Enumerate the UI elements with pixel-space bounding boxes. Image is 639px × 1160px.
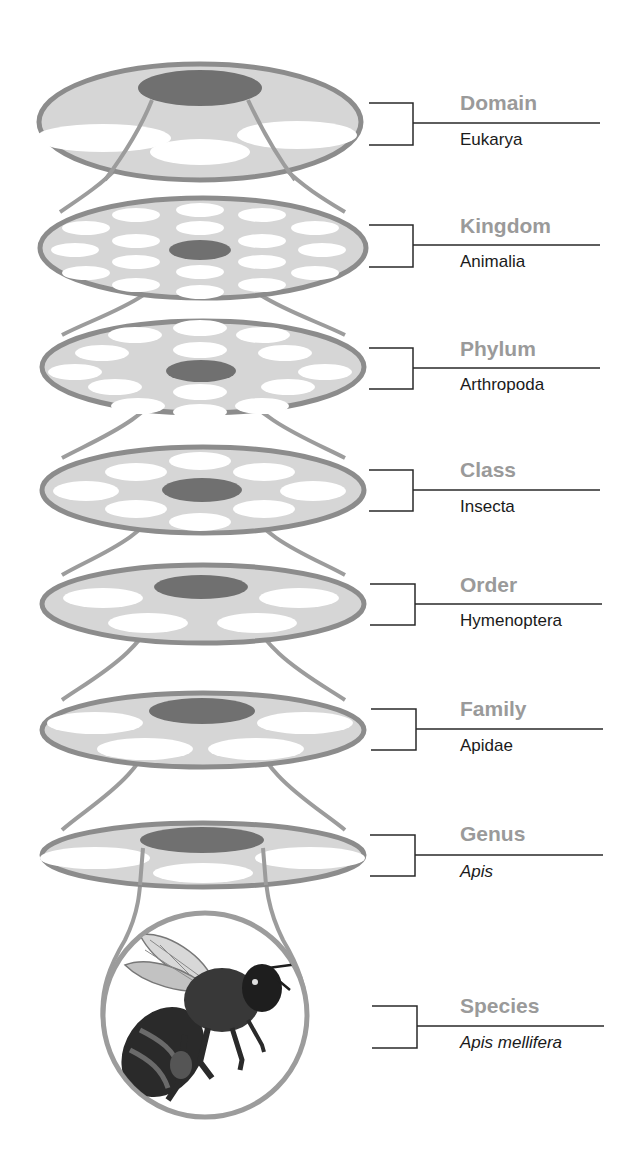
taxon-species: Apis mellifera	[460, 1034, 562, 1051]
disk-kingdom	[40, 198, 366, 299]
disk-phylum	[42, 320, 364, 420]
taxon-kingdom: Animalia	[460, 253, 525, 270]
taxon-genus: Apis	[460, 863, 493, 880]
taxon-phylum: Arthropoda	[460, 376, 544, 393]
disk-order	[42, 565, 364, 643]
disk-class	[42, 447, 364, 533]
rank-family: Family	[460, 698, 527, 719]
rank-phylum: Phylum	[460, 338, 536, 359]
taxon-family: Apidae	[460, 737, 513, 754]
rank-kingdom: Kingdom	[460, 215, 551, 236]
rank-species: Species	[460, 995, 539, 1016]
taxonomy-diagram	[0, 0, 639, 1160]
taxon-class: Insecta	[460, 498, 515, 515]
disk-family	[42, 693, 364, 767]
disk-domain	[35, 64, 361, 180]
rank-genus: Genus	[460, 823, 525, 844]
rank-domain: Domain	[460, 92, 537, 113]
disk-genus	[40, 823, 365, 887]
taxon-domain: Eukarya	[460, 131, 522, 148]
species-bulb	[103, 913, 307, 1117]
taxon-order: Hymenoptera	[460, 612, 562, 629]
rank-order: Order	[460, 574, 517, 595]
rank-class: Class	[460, 459, 516, 480]
